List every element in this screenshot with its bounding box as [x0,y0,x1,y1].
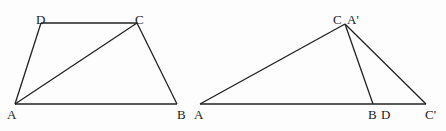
segment-A-apex [200,24,345,104]
label-B-right: B [368,108,377,121]
label-B: B [177,108,186,121]
triangles-overlay [200,24,426,104]
label-C-prime: C' [425,108,436,121]
segment-BC [137,23,177,104]
label-C: C [135,13,144,26]
segment-apex-C-prime [345,24,426,104]
segment-apex-B [345,24,373,104]
segment-DA [15,23,41,104]
label-A-right: A [194,108,203,121]
label-C-right: C [333,13,342,26]
label-A: A [7,108,16,121]
label-D: D [36,13,45,26]
geometry-diagram: D C A B A C A' B D C' [0,0,446,131]
diagonal-AC [15,23,137,104]
label-A-prime: A' [347,13,359,26]
diagram-lines [0,0,446,131]
trapezoid-ABCD [15,23,177,104]
label-D-right: D [381,108,390,121]
